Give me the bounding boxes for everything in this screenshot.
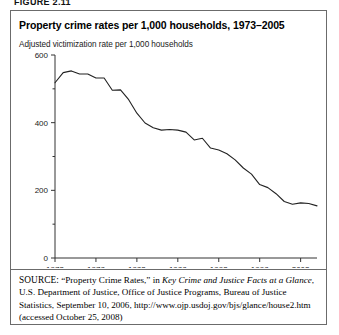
y-axis-ticks: 0200400600 (35, 53, 55, 263)
property-crime-rate-line (55, 71, 317, 206)
line-chart-svg: 0200400600 1973197819831988199319982003 (19, 53, 319, 268)
y-tick-label: 200 (35, 186, 49, 195)
x-axis-ticks: 1973197819831988199319982003 (46, 258, 310, 268)
chart-subtitle: Adjusted victimization rate per 1,000 ho… (19, 39, 319, 50)
data-series-layer (55, 71, 317, 206)
figure-container: Property crime rates per 1,000 household… (10, 10, 327, 325)
source-publication-title: Key Crime and Justice Facts at a Glance (162, 275, 312, 285)
x-tick-label: 1988 (169, 265, 187, 268)
y-tick-label: 0 (44, 254, 49, 263)
chart-plot-area: 0200400600 1973197819831988199319982003 (19, 53, 319, 268)
x-tick-label: 1983 (128, 265, 146, 268)
source-note: SOURCE: “Property Crime Rates,” in Key C… (19, 274, 319, 323)
y-tick-label: 600 (35, 53, 49, 60)
chart-axes (55, 55, 317, 258)
x-tick-label: 2003 (292, 265, 310, 268)
y-tick-label: 400 (35, 119, 49, 128)
x-tick-label: 1993 (210, 265, 228, 268)
x-tick-label: 1973 (46, 265, 64, 268)
x-tick-label: 1998 (251, 265, 269, 268)
source-divider (11, 269, 326, 270)
source-text-part1: “Property Crime Rates,” in (59, 275, 162, 285)
source-kicker: SOURCE: (19, 275, 59, 285)
x-tick-label: 1978 (87, 265, 105, 268)
chart-title: Property crime rates per 1,000 household… (19, 19, 319, 32)
figure-number-label: FIGURE 2.11 (14, 0, 71, 7)
